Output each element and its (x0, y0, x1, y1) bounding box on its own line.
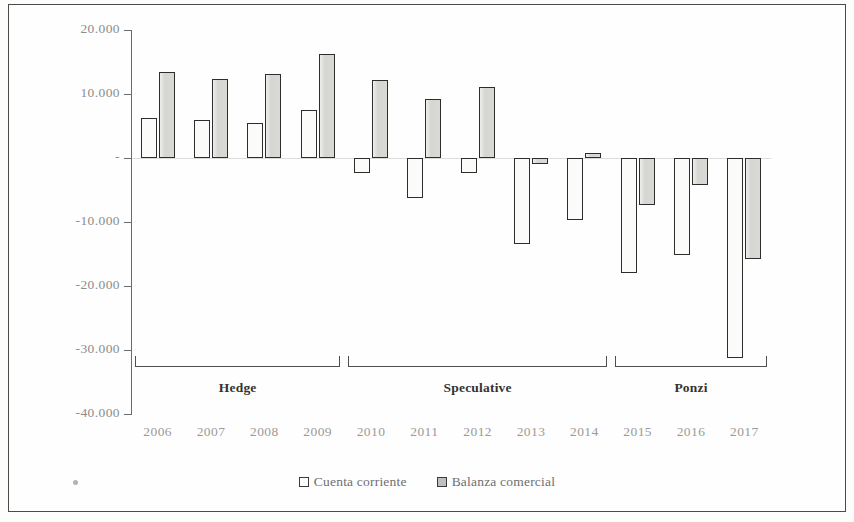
bar-2007-balanza-comercial (212, 79, 228, 158)
x-tick-label-2016: 2016 (667, 424, 715, 440)
bar-2006-balanza-comercial (159, 72, 175, 158)
y-tick-1 (124, 94, 132, 95)
bar-2011-balanza-comercial (425, 99, 441, 158)
period-label-ponzi: Ponzi (615, 380, 767, 396)
y-tick-label: 10.000 (46, 85, 120, 101)
period-bracket-hedge (135, 356, 340, 367)
y-tick-label: -40.000 (46, 405, 120, 421)
legend-label: Balanza comercial (452, 474, 555, 490)
chart-legend: Cuenta corrienteBalanza comercial (0, 474, 854, 490)
legend-swatch-icon (299, 477, 309, 487)
y-tick-label: - (46, 149, 120, 165)
bar-2017-cuenta-corriente (727, 158, 743, 358)
bar-2013-cuenta-corriente (514, 158, 530, 244)
period-label-speculative: Speculative (348, 380, 607, 396)
period-bracket-speculative (348, 356, 607, 367)
legend-label: Cuenta corriente (314, 474, 407, 490)
x-tick-label-2015: 2015 (614, 424, 662, 440)
period-label-hedge: Hedge (135, 380, 340, 396)
bar-2013-balanza-comercial (532, 158, 548, 164)
y-tick-label: -20.000 (46, 277, 120, 293)
bar-2006-cuenta-corriente (141, 118, 157, 158)
bar-2014-balanza-comercial (585, 153, 601, 158)
x-tick-label-2012: 2012 (454, 424, 502, 440)
bar-2011-cuenta-corriente (407, 158, 423, 198)
x-tick-label-2009: 2009 (294, 424, 342, 440)
bar-2015-cuenta-corriente (621, 158, 637, 273)
x-tick-label-2014: 2014 (560, 424, 608, 440)
bar-2016-balanza-comercial (692, 158, 708, 185)
bar-2008-cuenta-corriente (247, 123, 263, 158)
bar-2016-cuenta-corriente (674, 158, 690, 255)
y-tick-label: -10.000 (46, 213, 120, 229)
x-tick-label-2011: 2011 (400, 424, 448, 440)
x-tick-label-2017: 2017 (720, 424, 768, 440)
bar-2009-cuenta-corriente (301, 110, 317, 158)
x-tick-label-2013: 2013 (507, 424, 555, 440)
legend-swatch-icon (437, 477, 447, 487)
legend-item-cc[interactable]: Cuenta corriente (299, 474, 407, 490)
y-tick-label: 20.000 (46, 21, 120, 37)
y-tick-3 (124, 222, 132, 223)
scan-artifact-speck (73, 480, 78, 485)
y-tick-4 (124, 286, 132, 287)
y-tick-6 (124, 414, 132, 415)
bar-2010-balanza-comercial (372, 80, 388, 158)
bar-2012-cuenta-corriente (461, 158, 477, 173)
bar-2010-cuenta-corriente (354, 158, 370, 173)
bar-2009-balanza-comercial (319, 54, 335, 158)
chart-figure: 20.00010.000--10.000-20.000-30.000-40.00… (0, 0, 854, 522)
bar-2014-cuenta-corriente (567, 158, 583, 220)
legend-item-bc[interactable]: Balanza comercial (437, 474, 555, 490)
bar-2012-balanza-comercial (479, 87, 495, 158)
bar-2008-balanza-comercial (265, 74, 281, 158)
period-bracket-ponzi (615, 356, 767, 367)
bar-2017-balanza-comercial (745, 158, 761, 259)
y-tick-label: -30.000 (46, 341, 120, 357)
x-tick-label-2006: 2006 (134, 424, 182, 440)
y-tick-0 (124, 30, 132, 31)
y-axis-labels: 20.00010.000--10.000-20.000-30.000-40.00… (40, 0, 120, 522)
x-tick-label-2010: 2010 (347, 424, 395, 440)
bar-2007-cuenta-corriente (194, 120, 210, 158)
x-tick-label-2007: 2007 (187, 424, 235, 440)
x-tick-label-2008: 2008 (240, 424, 288, 440)
bar-2015-balanza-comercial (639, 158, 655, 205)
y-tick-5 (124, 350, 132, 351)
y-tick-2 (124, 158, 132, 159)
